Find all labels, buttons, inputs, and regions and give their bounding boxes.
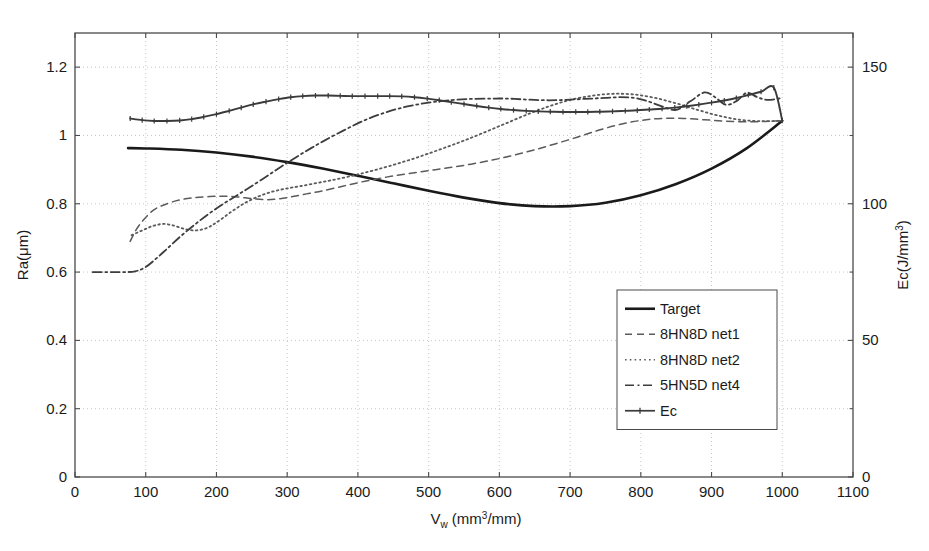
chart-canvas: 01002003004005006007008009001000110000.2… <box>0 0 929 551</box>
legend-label: 8HN8D net1 <box>660 326 740 342</box>
y-tick-label-right: 100 <box>862 195 887 212</box>
series-line <box>128 121 782 207</box>
x-tick-label: 600 <box>487 483 512 500</box>
x-tick-label: 200 <box>204 483 229 500</box>
series-line <box>130 86 782 121</box>
y-tick-label-left: 1.2 <box>46 58 67 75</box>
x-tick-label: 700 <box>558 483 583 500</box>
series-8hn8d-net2 <box>132 94 783 235</box>
x-tick-label: 0 <box>71 483 79 500</box>
legend-label: 5HN5D net4 <box>660 377 740 393</box>
x-tick-label: 900 <box>699 483 724 500</box>
x-tick-label: 400 <box>345 483 370 500</box>
legend-label: Ec <box>660 403 677 419</box>
y-tick-label-right: 150 <box>862 58 887 75</box>
y-tick-label-right: 50 <box>862 331 879 348</box>
x-tick-label: 500 <box>416 483 441 500</box>
x-tick-label: 1100 <box>837 483 869 500</box>
x-tick-label: 800 <box>628 483 653 500</box>
y-axis-title-right-text: Ec(J/mm3) <box>894 220 911 290</box>
y-tick-label-left: 0.4 <box>46 331 67 348</box>
x-tick-label: 100 <box>133 483 158 500</box>
y-tick-label-left: 0.6 <box>46 263 67 280</box>
y-tick-label-left: 1 <box>59 126 67 143</box>
legend-label: 8HN8D net2 <box>660 352 740 368</box>
y-tick-label-left: 0 <box>59 468 67 485</box>
figure-container: 01002003004005006007008009001000110000.2… <box>0 0 929 551</box>
x-axis-title-text: Vw (mm3/mm) <box>430 510 521 530</box>
x-tick-label: 1000 <box>766 483 799 500</box>
legend: Target8HN8D net18HN8D net25HN5D net4Ec <box>617 290 777 430</box>
series-line <box>132 94 783 235</box>
y-tick-label-right: 0 <box>862 468 870 485</box>
series-target <box>128 121 782 207</box>
tick-labels: 01002003004005006007008009001000110000.2… <box>46 58 887 500</box>
data-series <box>93 85 783 272</box>
x-axis-title: Vw (mm3/mm) <box>430 510 521 530</box>
y-tick-label-left: 0.8 <box>46 195 67 212</box>
y-tick-label-left: 0.2 <box>46 400 67 417</box>
y-axis-title-left-text: Ra(μm) <box>14 230 31 280</box>
legend-label: Target <box>660 301 700 317</box>
y-axis-title-right: Ec(J/mm3) <box>894 220 911 290</box>
x-tick-label: 300 <box>275 483 300 500</box>
y-axis-title-left: Ra(μm) <box>14 230 31 280</box>
